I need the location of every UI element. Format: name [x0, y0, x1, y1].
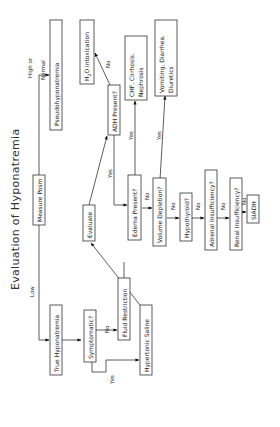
node-measure-posm: Measure Posm	[33, 175, 45, 225]
arrow-to-edema	[114, 135, 127, 205]
node-fluid-restriction: Fluid Restriction	[118, 278, 130, 340]
node-chf-cirrhosis-nephrosis: CHF, Cirrhosis, Nephrosis	[125, 36, 147, 100]
label-no-hypothyroid: No	[170, 202, 176, 210]
node-label-line2: Nephrosis	[137, 67, 145, 97]
node-label: SIADH	[250, 201, 257, 220]
node-renal-insufficiency: Renal Insufficiency?	[230, 178, 242, 250]
arrow-to-adh	[89, 136, 107, 205]
diagram-title: Evaluation of Hyponatremia	[9, 128, 22, 290]
label-yes-saline: Yes	[109, 375, 115, 385]
node-label: ADH Present?	[111, 91, 118, 132]
node-label-line1: Vomiting, Diarrhea,	[158, 35, 166, 93]
arrow-to-hypertonic-saline	[92, 360, 139, 372]
label-high-or: High or	[27, 57, 34, 78]
label-yes-chf: Yes	[128, 131, 134, 141]
node-symptomatic: Symptomatic?	[84, 310, 96, 362]
node-label: Evaluate	[86, 211, 93, 238]
node-adrenal-insufficiency: Adrenal Insufficiency?	[205, 170, 217, 250]
node-evaluate: Evaluate	[83, 205, 95, 241]
arrow-to-h2o-intox	[95, 53, 110, 85]
node-hypertonic-saline: Hypertonic Saline	[140, 305, 152, 375]
node-label: Hypothyroid?	[183, 198, 191, 238]
node-label-line2: Diuretics	[167, 66, 174, 93]
node-siadh: SIADH	[247, 195, 259, 223]
label-yes-adh: Yes	[107, 169, 113, 179]
node-label: Fluid Restriction	[121, 289, 128, 337]
node-label: Edema Present?	[131, 189, 138, 237]
label-low: Low	[29, 286, 35, 297]
label-no-renal: No	[220, 202, 226, 210]
label-no-h2o: No	[105, 60, 111, 68]
node-h2o-intoxication: H2O intoxication	[80, 20, 94, 84]
node-label: Volume Depletion?	[156, 187, 164, 243]
node-volume-depletion: Volume Depletion?	[153, 178, 166, 246]
node-label: Renal Insufficiency?	[233, 188, 241, 247]
arrow-to-evaluate	[91, 243, 140, 305]
node-label: True Hyponatremia	[53, 314, 61, 373]
node-vomiting-diarrhea-diuretics: Vomiting, Diarrhea, Diuretics	[155, 20, 177, 96]
label-no-fluid: No	[104, 325, 110, 333]
node-label: Adrenal Insufficiency?	[208, 181, 216, 247]
node-true-hyponatremia: True Hyponatremia	[50, 305, 62, 375]
label-yes-vomit: Yes	[156, 131, 162, 141]
label-normal: Normal	[40, 60, 46, 80]
node-hypothyroid: Hypothyroid?	[180, 193, 192, 241]
flowchart-canvas: Evaluation of Hyponatremia High or Norma…	[0, 0, 280, 427]
node-adh-present: ADH Present?	[108, 85, 120, 135]
node-label: Measure Posm	[36, 178, 43, 222]
node-label: Symptomatic?	[87, 316, 95, 359]
node-label: Pseudohyponatremia	[53, 62, 61, 126]
node-edema-present: Edema Present?	[128, 175, 141, 240]
label-no-volume: No	[144, 192, 150, 200]
node-label-line1: CHF, Cirrhosis,	[128, 53, 135, 97]
label-no-adrenal: No	[195, 202, 201, 210]
node-pseudohyponatremia: Pseudohyponatremia	[50, 20, 62, 130]
node-label: Hypertonic Saline	[143, 319, 151, 372]
